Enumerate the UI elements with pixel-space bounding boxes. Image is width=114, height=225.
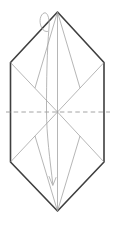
crease-line (11, 63, 58, 113)
crease-line (58, 112, 105, 162)
crease-line (58, 63, 105, 113)
crease-line (11, 112, 58, 162)
origami-diagram (0, 0, 114, 225)
crease-lines (6, 12, 110, 211)
origami-diagram-svg (0, 0, 114, 225)
